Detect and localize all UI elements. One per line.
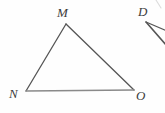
angle-D bbox=[146, 22, 165, 46]
edge-NO bbox=[26, 90, 134, 91]
vertex-label-n: N bbox=[9, 87, 18, 100]
vertex-label-o: O bbox=[136, 89, 145, 102]
vertex-label-m: M bbox=[57, 6, 68, 19]
vertex-label-d: D bbox=[138, 5, 147, 18]
edge-MN bbox=[26, 24, 66, 91]
corner-stray-mark bbox=[156, 0, 161, 8]
ray-D-upper bbox=[146, 22, 165, 31]
geometry-figure: M N O D bbox=[0, 0, 165, 113]
triangle-MNO bbox=[26, 24, 134, 91]
edge-MO bbox=[66, 24, 134, 90]
